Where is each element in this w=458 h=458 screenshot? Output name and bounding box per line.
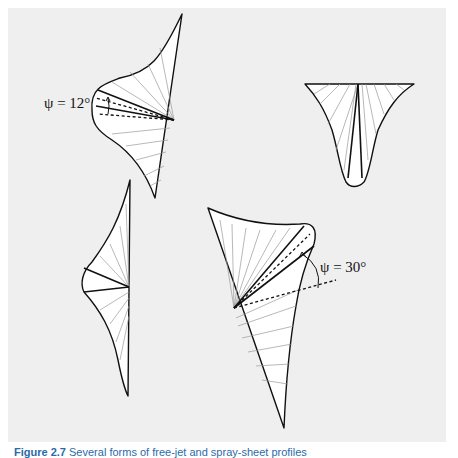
psi-30-label: ψ = 30° — [320, 259, 366, 275]
figure-caption: Figure 2.7 Several forms of free-jet and… — [14, 446, 307, 458]
caption-text: Several forms of free-jet and spray-shee… — [69, 446, 307, 458]
shape-bottom-center: ψ = 30° — [208, 208, 366, 428]
psi-12-label: ψ = 12° — [44, 95, 90, 111]
caption-number: Figure 2.7 — [14, 446, 66, 458]
shape-top-right — [305, 84, 414, 187]
shape-mid-left — [82, 180, 130, 396]
shape-top-left: ψ = 12° — [44, 14, 182, 198]
